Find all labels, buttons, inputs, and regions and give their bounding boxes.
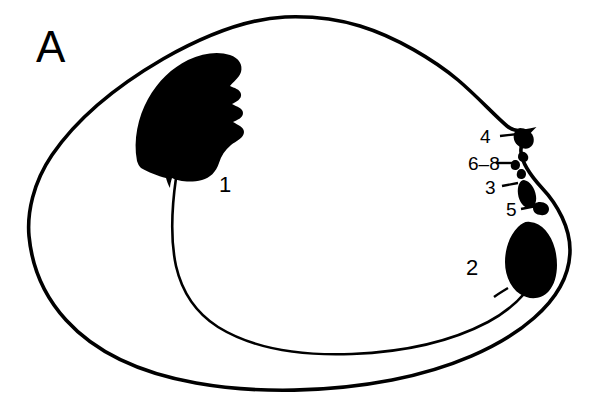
- figure-panel-a: A 1 2 4 6–8 3 5: [0, 0, 604, 400]
- tooth-7: [511, 160, 520, 170]
- label-hinge-5: 5: [506, 199, 517, 220]
- bivalve-shell-diagram: A 1 2 4 6–8 3 5: [0, 0, 604, 400]
- label-hinge-6-8: 6–8: [468, 153, 500, 174]
- tooth-8: [517, 169, 526, 179]
- panel-letter: A: [36, 22, 66, 71]
- label-anterior-scar: 1: [219, 172, 231, 197]
- label-hinge-4: 4: [480, 126, 491, 147]
- label-posterior-scar: 2: [466, 255, 478, 280]
- label-hinge-3: 3: [485, 177, 496, 198]
